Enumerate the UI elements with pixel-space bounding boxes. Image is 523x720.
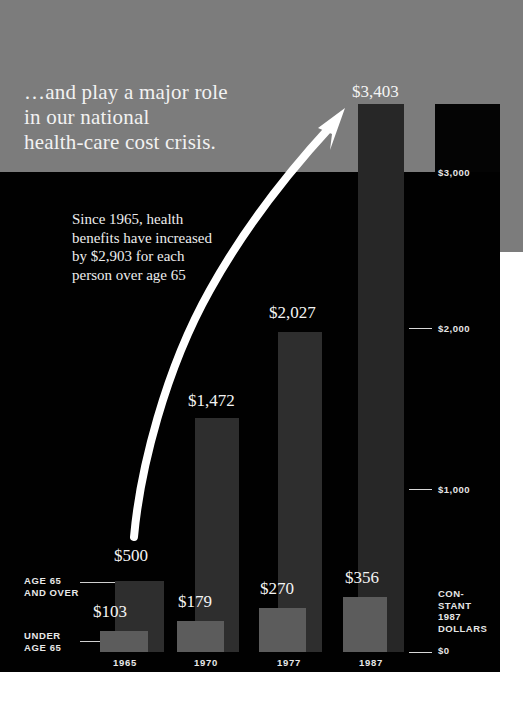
bottom-white-margin xyxy=(0,672,523,720)
growth-arrow xyxy=(0,0,523,720)
chart-poster: …and play a major role in our national h… xyxy=(0,0,523,720)
